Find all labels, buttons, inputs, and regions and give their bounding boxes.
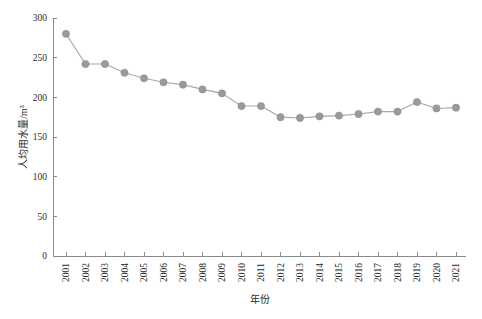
- data-point-markers: [62, 30, 459, 121]
- x-tick-label: 2021: [451, 263, 461, 282]
- x-tick-label: 2002: [81, 263, 91, 282]
- x-tick-label: 2017: [373, 263, 383, 282]
- data-point-marker: [82, 60, 89, 67]
- x-tick-label: 2011: [256, 263, 266, 282]
- y-tick-label: 0: [42, 251, 47, 261]
- x-axis-title: 年份: [250, 293, 270, 305]
- y-tick-label: 200: [33, 93, 48, 103]
- y-axis-tick-labels: 050100150200250300: [33, 13, 48, 261]
- data-point-marker: [413, 98, 420, 105]
- x-tick-label: 2001: [61, 263, 71, 282]
- y-axis-title: 人均用水量/m³: [18, 105, 29, 169]
- x-tick-label: 2015: [334, 263, 344, 282]
- data-point-marker: [374, 108, 381, 115]
- x-axis-tick-labels: 2001200220032004200520062007200820092010…: [61, 263, 461, 282]
- y-tick-label: 50: [38, 212, 48, 222]
- x-tick-label: 2013: [295, 263, 305, 282]
- x-tick-label: 2018: [393, 263, 403, 282]
- axes-group: [53, 18, 466, 256]
- x-tick-label: 2019: [412, 263, 422, 282]
- data-point-marker: [277, 114, 284, 121]
- x-tick-label: 2008: [198, 263, 208, 282]
- data-point-marker: [62, 30, 69, 37]
- data-point-marker: [355, 110, 362, 117]
- data-point-marker: [199, 86, 206, 93]
- data-point-marker: [238, 102, 245, 109]
- data-point-marker: [101, 60, 108, 67]
- data-point-marker: [140, 75, 147, 82]
- y-tick-label: 300: [33, 13, 48, 23]
- y-tick-label: 150: [33, 132, 48, 142]
- data-point-marker: [433, 105, 440, 112]
- x-tick-label: 2007: [178, 263, 188, 282]
- data-point-marker: [452, 104, 459, 111]
- data-point-marker: [316, 113, 323, 120]
- data-point-marker: [160, 79, 167, 86]
- x-tick-label: 2006: [159, 263, 169, 282]
- y-tick-label: 250: [33, 53, 48, 63]
- line-chart: 050100150200250300 200120022003200420052…: [0, 0, 482, 319]
- data-point-marker: [179, 81, 186, 88]
- x-tick-label: 2020: [432, 263, 442, 282]
- data-point-marker: [394, 108, 401, 115]
- data-point-marker: [335, 112, 342, 119]
- x-tick-label: 2003: [100, 263, 110, 282]
- data-point-marker: [257, 102, 264, 109]
- x-tick-label: 2005: [139, 263, 149, 282]
- data-point-marker: [218, 90, 225, 97]
- x-tick-label: 2012: [276, 263, 286, 282]
- data-point-marker: [121, 69, 128, 76]
- x-tick-label: 2004: [120, 263, 130, 282]
- x-tick-label: 2009: [217, 263, 227, 282]
- x-axis-ticks: [66, 252, 456, 256]
- x-tick-label: 2010: [237, 263, 247, 282]
- chart-container: 050100150200250300 200120022003200420052…: [0, 0, 482, 319]
- x-tick-label: 2014: [315, 263, 325, 282]
- data-point-marker: [296, 114, 303, 121]
- x-tick-label: 2016: [354, 263, 364, 282]
- y-tick-label: 100: [33, 172, 48, 182]
- y-axis-ticks: [53, 18, 57, 256]
